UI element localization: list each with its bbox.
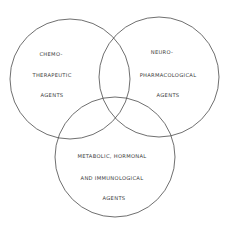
label-neuro-line2: PHARMACOLOGICAL <box>140 72 197 78</box>
label-neuro-line3: AGENTS <box>157 92 180 98</box>
label-chemo-line1: CHEMO- <box>39 51 62 57</box>
label-metabolic-line1: METABOLIC, HORMONAL <box>77 153 146 159</box>
label-metabolic-line2: AND IMMUNOLOGICAL <box>81 175 144 181</box>
label-chemo-line3: AGENTS <box>41 92 64 98</box>
label-chemo-line2: THERAPEUTIC <box>32 72 71 78</box>
venn-diagram: CHEMO- THERAPEUTIC AGENTS NEURO- PHARMAC… <box>0 0 229 229</box>
circle-chemotherapeutic <box>10 19 130 139</box>
label-metabolic-line3: AGENTS <box>103 195 126 201</box>
label-neuro-line1: NEURO- <box>151 49 173 55</box>
